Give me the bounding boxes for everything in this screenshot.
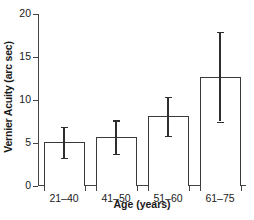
y-axis-title: Vernier Acuity (arc sec) [1,4,15,190]
y-axis-tick-label: 0 [25,179,31,192]
x-axis-tick-mark [200,186,201,191]
error-bar-cap-lower [61,158,68,159]
y-axis-tick-label: 20 [19,7,31,20]
y-axis-tick-label: 10 [19,93,31,106]
error-bar-line [167,97,168,137]
y-axis-tick-mark [33,14,38,15]
vernier-acuity-bar-chart: Vernier Acuity (arc sec) 05101520 21–404… [0,0,254,220]
error-bar-cap-lower [113,154,120,155]
x-axis-tick-mark [137,186,138,191]
x-axis-tick-mark [96,186,97,191]
error-bar-cap-lower [165,136,172,137]
x-axis-tick-mark [189,186,190,191]
y-axis-tick-label: 5 [25,136,31,149]
error-bar-line [63,127,64,158]
x-axis-tick-mark [44,186,45,191]
y-axis-tick: 10 [38,100,43,101]
x-axis-tick-mark [241,186,242,191]
y-axis-tick: 0 [38,186,43,187]
error-bar-cap-lower [217,122,224,123]
x-axis-tick-mark [85,186,86,191]
error-bar-cap-upper [61,127,68,128]
error-bar-line [115,120,116,154]
error-bar-cap-upper [165,97,172,98]
plot-area: 05101520 21–4041–5051–6061–75 [38,14,246,186]
y-axis-tick-label: 15 [19,50,31,63]
y-axis-tick-mark [33,186,38,187]
y-axis-tick-mark [33,143,38,144]
x-axis-tick-mark [148,186,149,191]
error-bar-cap-upper [113,120,120,121]
y-axis-tick-mark [33,57,38,58]
y-axis-tick-mark [33,100,38,101]
y-axis-tick: 15 [38,57,43,58]
error-bar-cap-upper [217,32,224,33]
error-bar-line [219,32,220,121]
x-axis-title: Age (years) [38,198,246,211]
y-axis-tick: 20 [38,14,43,15]
y-axis-tick: 5 [38,143,43,144]
